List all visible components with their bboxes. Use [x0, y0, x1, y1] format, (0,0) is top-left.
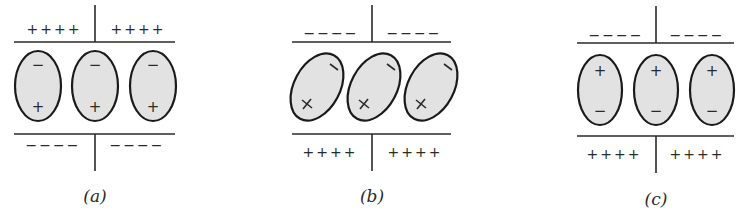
caption-c: (c)	[645, 189, 668, 209]
panel-b: −−−− −−−− − ++++ ++++	[280, 5, 468, 206]
cell-charge-top: +	[706, 62, 719, 80]
cell-charge-bottom: +	[89, 98, 102, 116]
bottom-plate-charges-right: ++++	[670, 146, 725, 162]
cell-charge-top: +	[650, 62, 663, 80]
top-plate-charges-right: −−−−	[387, 25, 442, 41]
cell: −	[280, 44, 354, 129]
panel-c: −−−− −−−− + − + − + − ++++ ++++ (c)	[577, 6, 734, 209]
caption-b: (b)	[360, 186, 384, 206]
cell-charge-top: −	[89, 56, 102, 74]
polarization-diagram: ++++ ++++ − + − + − + −−−− −−−− (a) −−−−…	[0, 0, 746, 217]
bottom-plate-charges-right: −−−−	[110, 137, 165, 153]
top-plate-charges-right: ++++	[111, 21, 166, 37]
panel-a: ++++ ++++ − + − + − + −−−− −−−− (a)	[14, 5, 176, 206]
top-plate-charges-left: −−−−	[589, 27, 644, 43]
cell-charge-bottom: −	[594, 102, 607, 120]
top-plate-charges-right: −−−−	[670, 27, 725, 43]
cell-charge-bottom: +	[147, 98, 160, 116]
cell	[394, 44, 468, 129]
cell-charge-top: −	[147, 56, 160, 74]
cell-charge-bottom: −	[650, 102, 663, 120]
cell-charge-top: −	[32, 56, 45, 74]
caption-a: (a)	[83, 186, 106, 206]
cell-charge-top: +	[594, 62, 607, 80]
cell	[337, 44, 411, 129]
top-plate-charges-left: −−−−	[304, 25, 359, 41]
top-plate-charges-left: ++++	[27, 21, 82, 37]
bottom-plate-charges-left: ++++	[587, 146, 642, 162]
bottom-plate-charges-left: ++++	[303, 144, 358, 160]
cell-charge-bottom: +	[32, 98, 45, 116]
bottom-plate-charges-right: ++++	[388, 144, 443, 160]
cell-charge-bottom: −	[706, 102, 719, 120]
bottom-plate-charges-left: −−−−	[26, 137, 81, 153]
